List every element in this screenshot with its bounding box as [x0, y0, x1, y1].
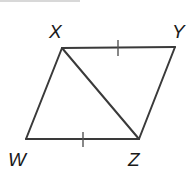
- vertex-label-y: Y: [172, 21, 186, 42]
- segment-yz: [139, 47, 175, 139]
- vertex-label-w: W: [8, 149, 28, 170]
- diagonal-xz: [62, 48, 139, 139]
- parallelogram-diagram: X Y W Z: [0, 0, 187, 175]
- vertex-label-z: Z: [127, 149, 141, 170]
- segment-wx: [26, 48, 62, 139]
- vertex-label-x: X: [48, 21, 63, 42]
